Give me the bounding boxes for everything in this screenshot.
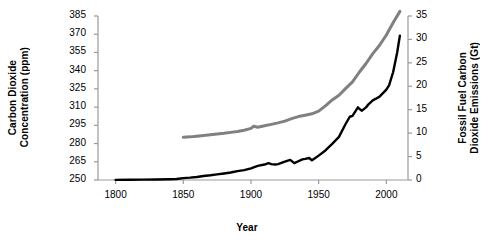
series-line-co2 <box>183 11 400 137</box>
series-line-emissions <box>116 36 400 180</box>
plot-area <box>0 0 494 248</box>
series-layer <box>116 11 400 179</box>
chart-figure: Carbon Dioxide Concentration (ppm) Fossi… <box>0 0 494 248</box>
axis-frame <box>98 16 408 180</box>
axis-ticks <box>94 16 412 184</box>
